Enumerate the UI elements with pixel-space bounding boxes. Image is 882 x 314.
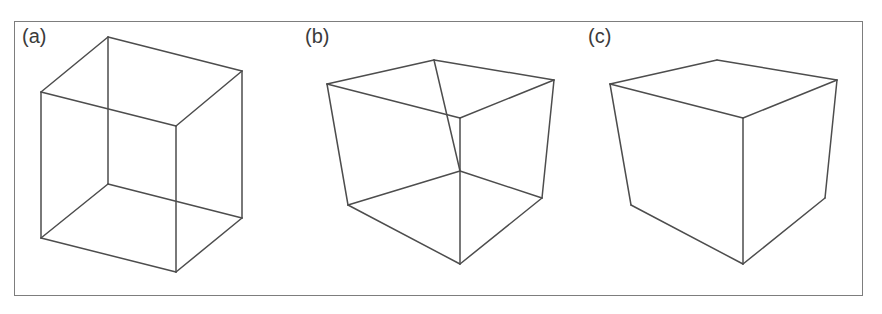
cube-edge-top_back-to-top_left bbox=[41, 37, 108, 92]
cube-edge-bottom_back-to-bottom_right bbox=[460, 171, 542, 198]
figure-root: (a) (b) (c) bbox=[0, 0, 882, 314]
cube-a-edge-group bbox=[41, 37, 242, 272]
cube-c-face-group bbox=[610, 60, 837, 264]
figure-frame-border: (a) (b) (c) bbox=[14, 21, 863, 296]
cube-edge-top_back-to-top_right bbox=[108, 37, 242, 71]
cube-solid-c bbox=[581, 22, 864, 297]
cube-edge-bottom_left-to-bottom_front bbox=[348, 205, 460, 264]
cube-edge-bottom_back-to-bottom_left bbox=[348, 171, 460, 205]
cube-edge-top_back-to-top_left bbox=[327, 60, 434, 84]
cube-edge-top_back-to-top_right bbox=[434, 60, 554, 80]
figure-panel-c: (c) bbox=[581, 22, 864, 297]
figure-panel-a: (a) bbox=[15, 22, 298, 297]
cube-edge-top_back-to-bottom_back bbox=[434, 60, 460, 171]
figure-panel-b: (b) bbox=[298, 22, 581, 297]
cube-edge-bottom_right-to-bottom_front bbox=[460, 198, 542, 264]
cube-wireframe-a bbox=[15, 22, 298, 297]
cube-edge-top_right-to-bottom_right bbox=[542, 80, 554, 198]
cube-edge-bottom_back-to-bottom_right bbox=[108, 184, 242, 218]
cube-edge-bottom_left-to-bottom_front bbox=[41, 238, 176, 272]
cube-edge-top_right-to-top_front bbox=[460, 80, 554, 118]
cube-b-edge-group bbox=[327, 60, 554, 264]
cube-edge-top_left-to-bottom_left bbox=[327, 84, 348, 205]
cube-edge-bottom_back-to-bottom_left bbox=[41, 184, 108, 238]
cube-edge-top_right-to-top_front bbox=[176, 71, 242, 126]
cube-edge-bottom_right-to-bottom_front bbox=[176, 218, 242, 272]
cube-wireframe-b bbox=[298, 22, 581, 297]
